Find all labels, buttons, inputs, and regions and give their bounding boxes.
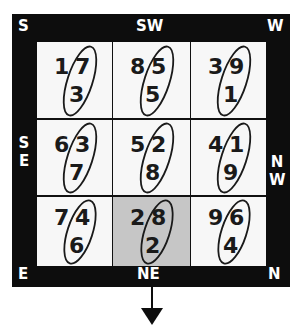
cell-number-top-left: 9 [208, 207, 223, 229]
grid-cell-r0c1: 8 5 5 [113, 42, 190, 118]
direction-label-ne: NE [137, 267, 160, 282]
cell-number-top-left: 2 [130, 207, 145, 229]
grid-cell-r1c2: 4 1 9 [191, 120, 266, 195]
cell-number-top-right: 2 [151, 134, 166, 156]
cell-number-bottom: 2 [145, 235, 160, 257]
cell-number-top-left: 7 [54, 207, 69, 229]
direction-label-n-bottom-right: N [268, 267, 281, 282]
cell-number-top-left: 5 [130, 134, 145, 156]
cell-number-top-right: 9 [229, 56, 244, 78]
cell-number-bottom: 3 [69, 84, 84, 106]
cell-number-top-right: 4 [75, 207, 90, 229]
grid-cell-r0c0: 1 7 3 [37, 42, 112, 118]
cell-number-bottom: 6 [69, 235, 84, 257]
grid-cell-r1c1: 5 2 8 [113, 120, 190, 195]
direction-label-e-bottom-left: E [18, 267, 28, 282]
cell-number-bottom: 8 [145, 162, 160, 184]
cell-number-bottom: 7 [69, 162, 84, 184]
grid-cell-r2c2: 9 6 4 [191, 197, 266, 266]
cell-number-top-right: 7 [75, 56, 90, 78]
cell-number-top-right: 3 [75, 134, 90, 156]
direction-label-nw-n: N [269, 154, 285, 170]
direction-label-se-e: E [16, 153, 32, 169]
direction-label-s-top-left: S [18, 19, 29, 34]
cell-number-top-left: 8 [130, 56, 145, 78]
direction-label-se-s: S [16, 135, 32, 151]
grid-cell-r0c2: 3 9 1 [191, 42, 266, 118]
cell-number-top-right: 1 [229, 134, 244, 156]
cell-number-top-left: 6 [54, 134, 69, 156]
direction-label-w-top-right: W [267, 19, 284, 34]
grid-cell-r2c1-highlighted: 2 8 2 [113, 197, 190, 266]
cell-number-bottom: 9 [223, 162, 238, 184]
cell-number-bottom: 4 [223, 235, 238, 257]
cell-number-top-right: 5 [151, 56, 166, 78]
arrow-down-icon [140, 287, 164, 327]
direction-label-nw-w: W [269, 172, 285, 188]
grid-cell-r2c0: 7 4 6 [37, 197, 112, 266]
cell-number-top-left: 4 [208, 134, 223, 156]
cell-number-top-right: 8 [151, 207, 166, 229]
cell-number-top-left: 3 [208, 56, 223, 78]
cell-number-top-left: 1 [54, 56, 69, 78]
number-grid: 1 7 3 8 5 5 3 9 1 6 3 7 5 2 8 4 1 9 7 4 … [37, 42, 266, 264]
cell-number-bottom: 1 [223, 84, 238, 106]
cell-number-top-right: 6 [229, 207, 244, 229]
cell-number-bottom: 5 [145, 84, 160, 106]
grid-cell-r1c0: 6 3 7 [37, 120, 112, 195]
direction-label-sw: SW [136, 19, 163, 34]
